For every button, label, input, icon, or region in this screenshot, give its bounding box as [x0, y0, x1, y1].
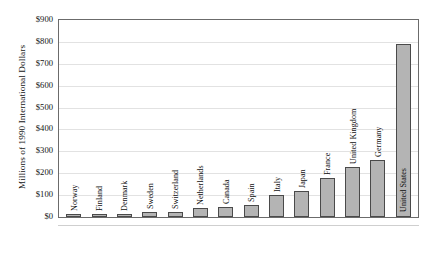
bar-label: France: [323, 152, 332, 174]
bar-label: Japan: [297, 169, 306, 188]
y-axis-tick-labels: $900$800$700$600$500$400$300$200$100$0: [0, 0, 58, 253]
bar[interactable]: United Kingdom: [345, 167, 360, 217]
bar-slot: United Kingdom: [340, 20, 365, 217]
bar-label: United Kingdom: [348, 108, 357, 163]
y-tick-label: $200: [36, 167, 53, 177]
bar[interactable]: Netherlands: [193, 208, 208, 217]
bar-label: Norway: [69, 185, 78, 211]
baseline-rule: [58, 225, 419, 226]
bar[interactable]: Finland: [92, 214, 107, 217]
bar[interactable]: Germany: [370, 160, 385, 217]
bar-slot: Netherlands: [188, 20, 213, 217]
bar-slot: Spain: [239, 20, 264, 217]
bar-label: Germany: [373, 127, 382, 157]
bar-slot: Canada: [213, 20, 238, 217]
bar[interactable]: Sweden: [142, 212, 157, 217]
bar[interactable]: Denmark: [117, 214, 132, 217]
y-tick-label: $0: [44, 211, 53, 221]
bar[interactable]: United States: [396, 44, 411, 217]
bar-slot: United States: [391, 20, 416, 217]
bar-slot: Japan: [289, 20, 314, 217]
y-tick-label: $100: [36, 189, 53, 199]
bar-slot: Italy: [264, 20, 289, 217]
bar-label: Switzerland: [171, 169, 180, 208]
y-tick-label: $600: [36, 80, 53, 90]
bar-slot: Sweden: [137, 20, 162, 217]
bar-label: Italy: [272, 177, 281, 192]
bar[interactable]: Spain: [244, 205, 259, 217]
y-tick-label: $900: [36, 14, 53, 24]
bar[interactable]: Italy: [269, 195, 284, 217]
bar-label: Finland: [95, 186, 104, 211]
bar-label: Canada: [221, 179, 230, 204]
bar[interactable]: Japan: [294, 191, 309, 217]
y-tick-label: $700: [36, 58, 53, 68]
bar-label: Sweden: [145, 183, 154, 209]
y-tick-label: $400: [36, 123, 53, 133]
bar-slot: Germany: [365, 20, 390, 217]
y-tick-label: $800: [36, 36, 53, 46]
bar-label: Spain: [247, 183, 256, 202]
bar-slot: Switzerland: [162, 20, 187, 217]
bar-slot: Norway: [61, 20, 86, 217]
bar[interactable]: Canada: [218, 207, 233, 218]
bar[interactable]: Norway: [66, 214, 81, 217]
y-tick-label: $300: [36, 145, 53, 155]
bar-slot: Denmark: [112, 20, 137, 217]
bar[interactable]: France: [320, 178, 335, 217]
bar-slot: Finland: [86, 20, 111, 217]
y-tick-label: $500: [36, 102, 53, 112]
bar-label: Denmark: [120, 180, 129, 210]
plot-area: NorwayFinlandDenmarkSwedenSwitzerlandNet…: [58, 19, 419, 218]
bar-chart-figure: Millions of 1990 International Dollars $…: [0, 0, 427, 253]
bar-label: United States: [399, 168, 408, 212]
bar-slot: France: [315, 20, 340, 217]
bar[interactable]: Switzerland: [168, 212, 183, 217]
bar-series: NorwayFinlandDenmarkSwedenSwitzerlandNet…: [59, 20, 418, 217]
bar-label: Netherlands: [196, 166, 205, 206]
